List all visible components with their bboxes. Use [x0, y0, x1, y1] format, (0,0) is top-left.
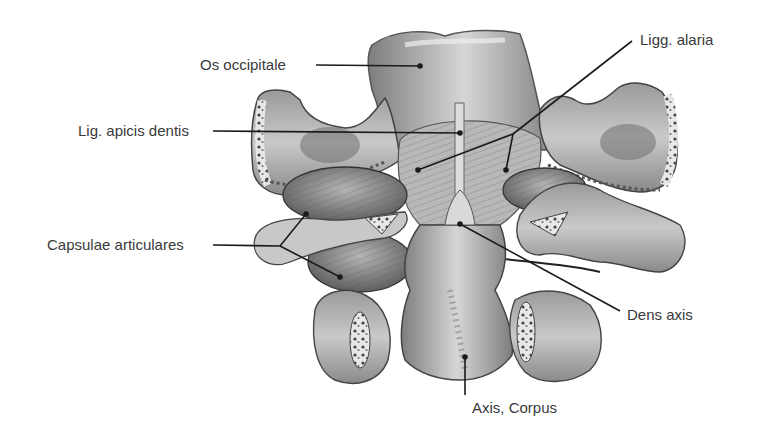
- anatomy-illustration: [0, 0, 770, 441]
- right-axis-process: [510, 291, 601, 382]
- left-axis-process: [314, 290, 391, 383]
- label-os-occipitale: Os occipitale: [200, 56, 286, 74]
- label-ligg-alaria: Ligg. alaria: [640, 31, 713, 49]
- label-capsulae-articulares: Capsulae articulares: [47, 236, 184, 254]
- label-axis-corpus: Axis, Corpus: [472, 399, 557, 417]
- label-lig-apicis-dentis: Lig. apicis dentis: [78, 122, 189, 140]
- anatomy-figure: Os occipitale Lig. apicis dentis Ligg. a…: [0, 0, 770, 441]
- label-dens-axis: Dens axis: [627, 306, 693, 324]
